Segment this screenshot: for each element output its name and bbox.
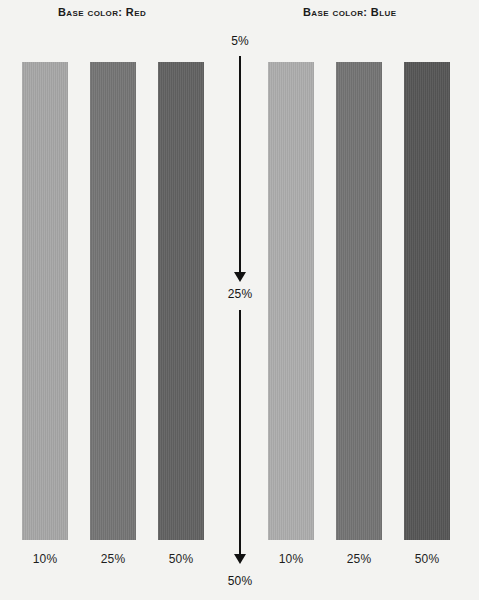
scale-label-bottom: 50% bbox=[205, 574, 275, 588]
swatch-label-red-10: 10% bbox=[14, 552, 76, 566]
group-heading-blue: Base color: Blue bbox=[303, 6, 396, 18]
swatch-blue-50 bbox=[404, 62, 450, 540]
swatch-red-10 bbox=[22, 62, 68, 540]
swatch-column-red-10: 10% bbox=[22, 62, 68, 540]
swatch-red-25 bbox=[90, 62, 136, 540]
swatch-red-50 bbox=[158, 62, 204, 540]
axis-arrowhead-upper-icon bbox=[234, 272, 246, 282]
scale-label-top: 5% bbox=[205, 34, 275, 48]
swatch-column-blue-50: 50% bbox=[404, 62, 450, 540]
swatch-label-red-50: 50% bbox=[150, 552, 212, 566]
swatch-blue-25 bbox=[336, 62, 382, 540]
axis-line-lower bbox=[239, 310, 241, 560]
swatch-column-red-25: 25% bbox=[90, 62, 136, 540]
scale-label-middle: 25% bbox=[205, 287, 275, 301]
swatch-label-red-25: 25% bbox=[82, 552, 144, 566]
swatch-panel-red: 10% 25% 50% bbox=[22, 62, 212, 540]
swatch-label-blue-50: 50% bbox=[396, 552, 458, 566]
swatch-label-blue-25: 25% bbox=[328, 552, 390, 566]
tint-scale-axis: 5% 25% 50% bbox=[205, 34, 275, 594]
group-heading-red: Base color: Red bbox=[58, 6, 146, 18]
tint-comparison-figure: Base color: Red Base color: Blue 10% 25%… bbox=[0, 0, 479, 600]
axis-arrowhead-lower-icon bbox=[234, 554, 246, 564]
swatch-column-red-50: 50% bbox=[158, 62, 204, 540]
axis-line-upper bbox=[239, 56, 241, 278]
swatch-panel-blue: 10% 25% 50% bbox=[268, 62, 458, 540]
swatch-column-blue-25: 25% bbox=[336, 62, 382, 540]
